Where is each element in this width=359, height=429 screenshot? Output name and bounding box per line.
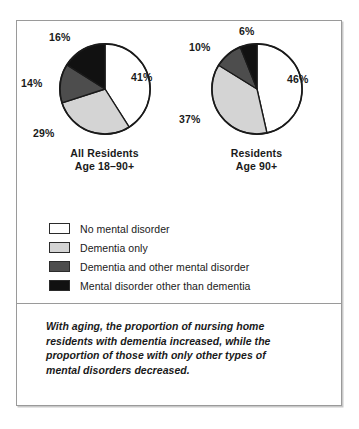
pie-svg-all-residents [57, 41, 153, 137]
pie-caption-residents-age-90-plus: Residents Age 90+ [175, 147, 338, 173]
charts-row: 41% 29% 14% 16% All Residents Age 18–90+… [17, 21, 341, 211]
pie-caption-all-residents: All Residents Age 18–90+ [23, 147, 186, 173]
pie-subtitle-all-residents: Age 18–90+ [23, 160, 186, 173]
pie-graphic-residents-age-90-plus [209, 41, 305, 137]
legend-label-dementia-and-other: Dementia and other mental disorder [80, 261, 249, 273]
legend-item-dementia-and-other: Dementia and other mental disorder [49, 257, 319, 276]
legend-item-dementia-only: Dementia only [49, 238, 319, 257]
slice-label-dementia-and-other: 14% [21, 77, 42, 89]
legend-swatch-icon-dementia-only [49, 242, 70, 253]
legend-item-other-than-dementia: Mental disorder other than dementia [49, 276, 319, 295]
slice-label-other-than-dementia: 6% [239, 25, 254, 37]
slice-label-dementia-only: 37% [179, 113, 200, 125]
note-divider [17, 303, 341, 304]
figure-frame: 41% 29% 14% 16% All Residents Age 18–90+… [16, 20, 342, 406]
pie-title-residents-age-90-plus: Residents [175, 147, 338, 160]
slice-label-dementia-only: 29% [33, 127, 54, 139]
pie-subtitle-residents-age-90-plus: Age 90+ [175, 160, 338, 173]
legend-label-other-than-dementia: Mental disorder other than dementia [80, 280, 250, 292]
pie-chart-all-residents: 41% 29% 14% 16% All Residents Age 18–90+ [23, 21, 186, 211]
legend-label-dementia-only: Dementia only [80, 242, 148, 254]
pie-title-all-residents: All Residents [23, 147, 186, 160]
chart-legend: No mental disorder Dementia only Dementi… [49, 219, 319, 295]
legend-swatch-icon-dementia-and-other [49, 261, 70, 272]
slice-label-no-mental-disorder: 41% [131, 71, 152, 83]
legend-label-no-mental-disorder: No mental disorder [80, 223, 170, 235]
pie-chart-residents-age-90-plus: 46% 37% 10% 6% Residents Age 90+ [175, 21, 338, 211]
pie-svg-residents-age-90-plus [209, 41, 305, 137]
pie-graphic-all-residents [57, 41, 153, 137]
legend-swatch-icon-other-than-dementia [49, 280, 70, 291]
legend-item-no-mental-disorder: No mental disorder [49, 219, 319, 238]
slice-label-other-than-dementia: 16% [49, 31, 70, 43]
figure-note: With aging, the proportion of nursing ho… [46, 319, 296, 377]
slice-label-no-mental-disorder: 46% [287, 73, 308, 85]
slice-label-dementia-and-other: 10% [189, 41, 210, 53]
legend-swatch-icon-no-mental-disorder [49, 223, 70, 234]
